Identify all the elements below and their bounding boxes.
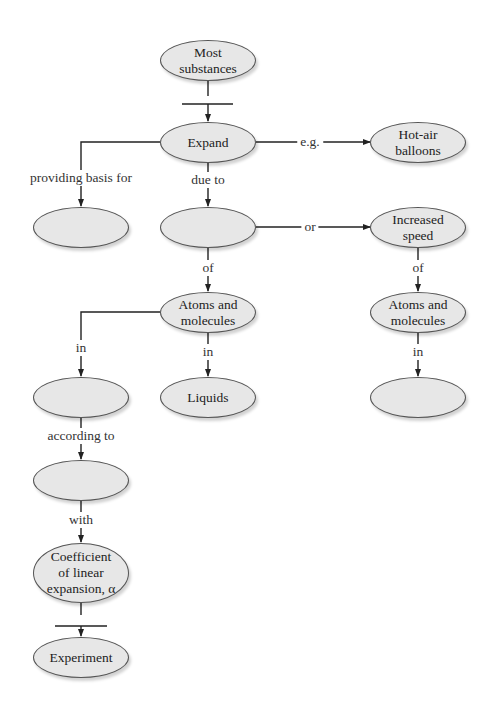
node-blank-left-3[interactable] <box>33 460 129 501</box>
node-blank-right[interactable] <box>370 377 466 418</box>
node-experiment: Experiment <box>33 637 129 678</box>
node-blank-left-1[interactable] <box>33 207 129 248</box>
node-liquids: Liquids <box>160 377 256 418</box>
link-label-in-left: in <box>73 340 90 356</box>
link-label-eg: e.g. <box>297 134 323 150</box>
link-label-or: or <box>301 219 318 235</box>
node-most-substances: Most substances <box>160 40 256 81</box>
link-label-in-center: in <box>200 344 217 360</box>
link-label-according-to: according to <box>44 428 117 444</box>
node-atoms-molecules-right: Atoms and molecules <box>370 292 466 333</box>
node-atoms-molecules-center: Atoms and molecules <box>160 292 256 333</box>
link-label-in-right: in <box>410 344 427 360</box>
node-blank-center-1[interactable] <box>160 207 256 248</box>
link-label-with: with <box>66 512 96 528</box>
node-coefficient-linear-expansion: Coefficient of linear expansion, α <box>33 543 129 603</box>
link-label-providing-basis-for: providing basis for <box>27 170 135 186</box>
link-label-of-center: of <box>199 260 216 276</box>
link-label-due-to: due to <box>188 172 227 188</box>
node-blank-left-2[interactable] <box>33 377 129 418</box>
link-label-of-right: of <box>409 260 426 276</box>
node-increased-speed: Increased speed <box>370 207 466 248</box>
node-expand: Expand <box>160 122 256 163</box>
node-hot-air-balloons: Hot-air balloons <box>370 122 466 163</box>
